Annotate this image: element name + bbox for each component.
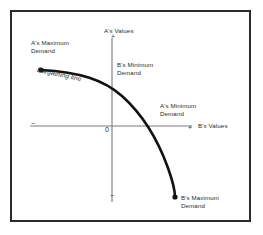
vertical-axis-plus-sign: + [111, 33, 115, 40]
origin-label: 0 [105, 126, 109, 133]
bargaining-line-curve [41, 70, 175, 197]
annotation-b-minimum-demand-line1: B's Minimum [117, 61, 153, 69]
annotation-b-maximum-demand-line1: B's Maximum [181, 194, 219, 202]
annotation-b-minimum-demand-line2: Demand [117, 69, 153, 77]
annotation-a-minimum-demand-line2: Demand [160, 110, 196, 118]
annotation-a-minimum-demand: A's Minimum Demand [160, 102, 196, 117]
annotation-a-minimum-demand-line1: A's Minimum [160, 102, 196, 110]
horizontal-axis-label: B's Values [198, 122, 228, 130]
annotation-a-maximum-demand-line2: Demand [31, 47, 69, 55]
vertical-axis-minus-sign: − [110, 192, 114, 199]
annotation-b-maximum-demand-line2: Demand [181, 202, 219, 210]
figure-container: A's Values B's Values + − − + 0 A's Maxi… [0, 0, 263, 235]
horizontal-axis-minus-sign: − [31, 120, 35, 127]
annotation-a-maximum-demand: A's Maximum Demand [31, 39, 69, 54]
horizontal-axis-plus-sign: + [188, 124, 192, 131]
vertical-axis-label: A's Values [104, 27, 134, 35]
b-maximum-demand-marker [172, 194, 177, 199]
annotation-b-minimum-demand: B's Minimum Demand [117, 61, 153, 76]
annotation-a-maximum-demand-line1: A's Maximum [31, 39, 69, 47]
annotation-b-maximum-demand: B's Maximum Demand [181, 194, 219, 209]
plot-svg [0, 0, 263, 235]
